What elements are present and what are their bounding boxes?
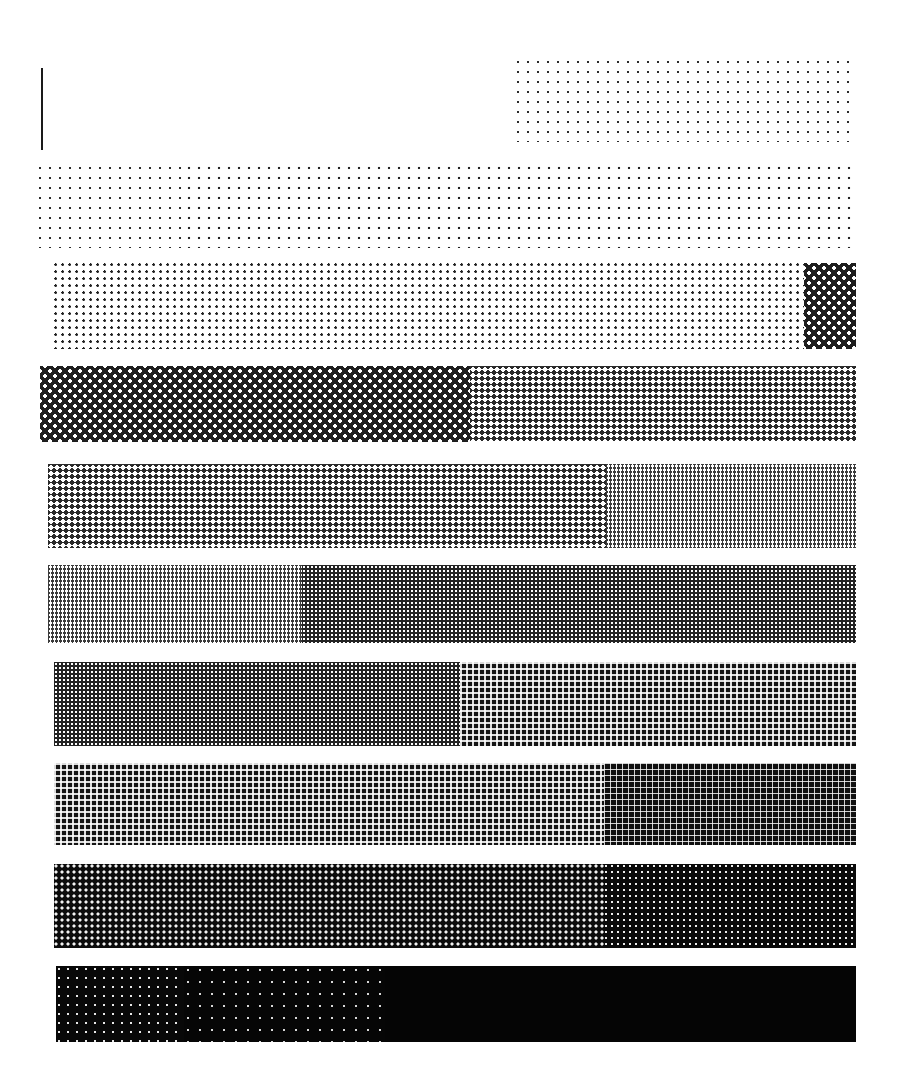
band-6-segment-a <box>48 565 302 643</box>
halftone-band-9 <box>54 864 856 948</box>
band-10-segment-c <box>385 966 856 1042</box>
left-edge-tick-mark <box>41 68 43 150</box>
band-3-segment-b <box>804 263 856 349</box>
band-5-segment-a <box>48 464 606 548</box>
band-4-segment-b <box>470 366 856 442</box>
band-1-segment-a <box>516 60 856 142</box>
halftone-band-6 <box>48 565 856 643</box>
halftone-band-3 <box>54 263 856 349</box>
band-7-segment-b <box>460 662 856 746</box>
band-5-segment-b <box>606 464 856 548</box>
band-8-segment-a <box>54 763 604 845</box>
band-8-segment-b <box>604 763 856 845</box>
halftone-band-4 <box>40 366 856 442</box>
band-9-segment-a <box>54 864 604 948</box>
halftone-band-5 <box>48 464 856 548</box>
band-3-segment-a <box>54 263 804 349</box>
halftone-band-7 <box>54 662 856 746</box>
band-2-segment-b <box>187 166 856 248</box>
halftone-band-8 <box>54 763 856 845</box>
band-10-segment-a <box>56 966 184 1042</box>
band-9-segment-b <box>604 864 856 948</box>
halftone-band-1 <box>516 60 856 142</box>
band-6-segment-b <box>302 565 856 643</box>
halftone-chart-canvas <box>0 0 907 1085</box>
halftone-band-10 <box>56 966 856 1042</box>
halftone-band-2 <box>38 166 856 248</box>
band-7-segment-a <box>54 662 460 746</box>
band-10-segment-b <box>184 966 385 1042</box>
band-4-segment-a <box>40 366 470 442</box>
band-2-segment-a <box>38 166 187 248</box>
